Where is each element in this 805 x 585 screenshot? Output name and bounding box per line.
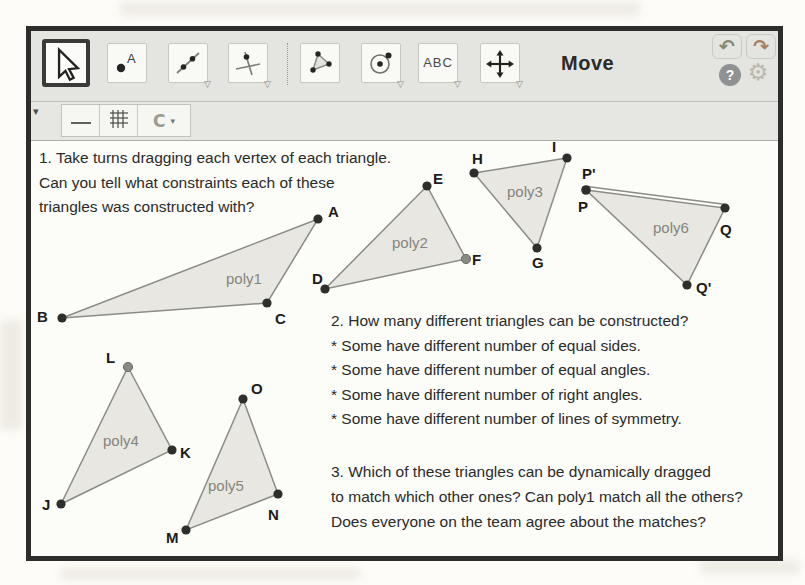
toolbar-separator: [287, 43, 288, 85]
help-question-icon: ?: [726, 67, 735, 83]
vertex-h[interactable]: [469, 168, 478, 177]
polygon-poly5: poly5 O N M: [166, 380, 283, 546]
vertex-k[interactable]: [167, 445, 176, 454]
polygon-icon: [301, 50, 339, 76]
vertex-j-label: J: [42, 496, 50, 513]
vertex-i-label: I: [552, 141, 556, 155]
vertex-c-label: C: [275, 310, 286, 327]
vertex-f[interactable]: [461, 254, 470, 263]
poly3-label: poly3: [507, 183, 543, 200]
vertex-a[interactable]: [313, 214, 322, 223]
vertex-q-label: Q: [720, 221, 732, 238]
poly4-label: poly4: [103, 432, 139, 449]
new-point-tool-button[interactable]: A: [107, 43, 147, 83]
triangle-poly1[interactable]: [62, 219, 318, 318]
perpendicular-line-tool-button[interactable]: ▽: [228, 43, 268, 83]
polygon-poly6: poly6 P' P Q Q': [578, 165, 732, 296]
graphics-view[interactable]: 1. Take turns dragging each vertex of ea…: [31, 141, 778, 556]
tool-dropdown-icon[interactable]: ▽: [454, 80, 461, 89]
polygon-tool-button[interactable]: [300, 43, 340, 83]
abc-text-icon: ABC: [419, 55, 457, 70]
show-grid-button[interactable]: [100, 105, 138, 136]
grid-icon: [107, 107, 131, 135]
tool-dropdown-icon[interactable]: ▽: [397, 80, 404, 89]
vertex-p-label: P: [578, 198, 588, 215]
triangle-poly5[interactable]: [186, 399, 278, 530]
vertex-c[interactable]: [262, 298, 271, 307]
current-mode-label: Move: [561, 52, 614, 75]
help-button[interactable]: ?: [719, 64, 741, 86]
vertex-o-label: O: [251, 380, 263, 397]
vertex-a-label: A: [328, 203, 339, 220]
vertex-q[interactable]: [720, 203, 729, 212]
geometry-layer: poly1 A B C poly2 D E F: [31, 141, 778, 556]
vertex-j[interactable]: [56, 499, 65, 508]
circle-tool-button[interactable]: ▽: [361, 43, 401, 83]
tool-dropdown-icon[interactable]: ▽: [264, 80, 271, 89]
vertex-f-label: F: [472, 251, 481, 268]
poly5-label: poly5: [208, 477, 244, 494]
axes-icon: [69, 107, 93, 135]
geogebra-window: A ▽ ▽: [26, 26, 783, 561]
poly6-label: poly6: [653, 219, 689, 236]
text-tool-button[interactable]: ABC ▽: [418, 43, 458, 83]
vertex-h-label: H: [472, 150, 483, 167]
vertex-i[interactable]: [562, 153, 571, 162]
circle-with-center-icon: [362, 50, 400, 76]
dropdown-arrow-icon: ▾: [170, 116, 175, 126]
vertex-m-label: M: [166, 529, 179, 546]
vertex-qprime-label: Q': [696, 279, 711, 296]
tool-dropdown-icon[interactable]: ▽: [516, 80, 523, 89]
vertex-pprime-label: P': [582, 165, 596, 182]
show-axes-button[interactable]: [62, 105, 100, 136]
move-pointer-tool-button[interactable]: [42, 39, 90, 87]
point-icon: A: [108, 50, 146, 76]
stylebar-collapse-button[interactable]: ▾: [33, 105, 39, 118]
page-ghost-bottom: [60, 568, 360, 580]
stylebar-button-group: C ▾: [61, 104, 191, 137]
toolbar: A ▽ ▽: [31, 31, 778, 102]
page-ghost-left: [0, 320, 22, 430]
vertex-p-pprime[interactable]: [581, 185, 591, 195]
vertex-b-label: B: [37, 308, 48, 325]
settings-button[interactable]: ⚙: [745, 59, 771, 85]
redo-icon: ↷: [753, 35, 769, 57]
style-bar: ▾: [31, 102, 778, 141]
vertex-e-label: E: [433, 170, 443, 187]
polygon-poly1: poly1 A B C: [37, 203, 339, 327]
point-capturing-button[interactable]: C ▾: [138, 105, 190, 136]
page-ghost-bottom-right: [700, 560, 800, 574]
triangle-poly6[interactable]: [586, 190, 725, 285]
gear-icon: ⚙: [748, 59, 769, 85]
move-graphics-view-tool-button[interactable]: ▽: [480, 43, 520, 83]
page-ghost-top: [120, 2, 640, 16]
vertex-n-label: N: [268, 506, 279, 523]
vertex-m[interactable]: [181, 525, 190, 534]
polygon-poly2: poly2 D E F: [312, 170, 481, 294]
vertex-d-label: D: [312, 270, 323, 287]
vertex-g-label: G: [532, 254, 544, 271]
vertex-l[interactable]: [123, 362, 132, 371]
cursor-arrow-icon: [46, 47, 86, 83]
vertex-b[interactable]: [57, 313, 66, 322]
tool-dropdown-icon[interactable]: ▽: [204, 80, 211, 89]
vertex-k-label: K: [180, 444, 191, 461]
vertex-g[interactable]: [532, 243, 541, 252]
point-capturing-icon: C: [153, 111, 165, 131]
undo-button[interactable]: ↶: [712, 34, 742, 59]
vertex-e[interactable]: [422, 181, 431, 190]
four-arrows-move-icon: [481, 50, 519, 78]
vertex-n[interactable]: [273, 489, 282, 498]
poly2-label: poly2: [392, 234, 428, 251]
undo-icon: ↶: [719, 35, 735, 57]
line-tool-button[interactable]: ▽: [168, 43, 208, 83]
redo-button[interactable]: ↷: [746, 34, 776, 59]
vertex-o[interactable]: [238, 394, 247, 403]
chevron-down-icon: ▾: [33, 105, 39, 118]
perpendicular-line-icon: [229, 50, 267, 76]
vertex-qprime[interactable]: [682, 280, 691, 289]
svg-text:A: A: [127, 51, 136, 66]
vertex-l-label: L: [106, 349, 115, 366]
triangle-poly3[interactable]: [474, 158, 567, 248]
polygon-poly4: poly4 L K J: [42, 349, 191, 513]
